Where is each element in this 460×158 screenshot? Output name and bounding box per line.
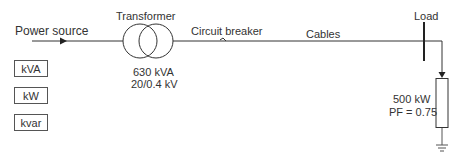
transformer-primary-winding-icon bbox=[123, 24, 157, 58]
load-power-factor: PF = 0.75 bbox=[389, 106, 437, 118]
load-power: 500 kW bbox=[393, 93, 430, 105]
ground-icon bbox=[436, 145, 448, 151]
transformer-voltage: 20/0.4 kV bbox=[131, 78, 177, 90]
power-source-label: Power source bbox=[15, 25, 88, 37]
source-arrow-icon bbox=[60, 38, 67, 45]
circuit-breaker-label: Circuit breaker bbox=[191, 25, 263, 37]
cables-label: Cables bbox=[306, 28, 340, 40]
load-resistor-icon bbox=[436, 79, 448, 128]
transformer-label: Transformer bbox=[116, 10, 176, 22]
transformer-rating: 630 kVA bbox=[133, 66, 174, 78]
load-arrow-icon bbox=[439, 72, 446, 78]
unit-button-kw[interactable]: kW bbox=[14, 87, 48, 104]
unit-button-kvar[interactable]: kvar bbox=[14, 114, 48, 131]
transformer-secondary-winding-icon bbox=[139, 24, 173, 58]
load-label: Load bbox=[414, 10, 438, 22]
unit-button-kva[interactable]: kVA bbox=[14, 60, 48, 77]
